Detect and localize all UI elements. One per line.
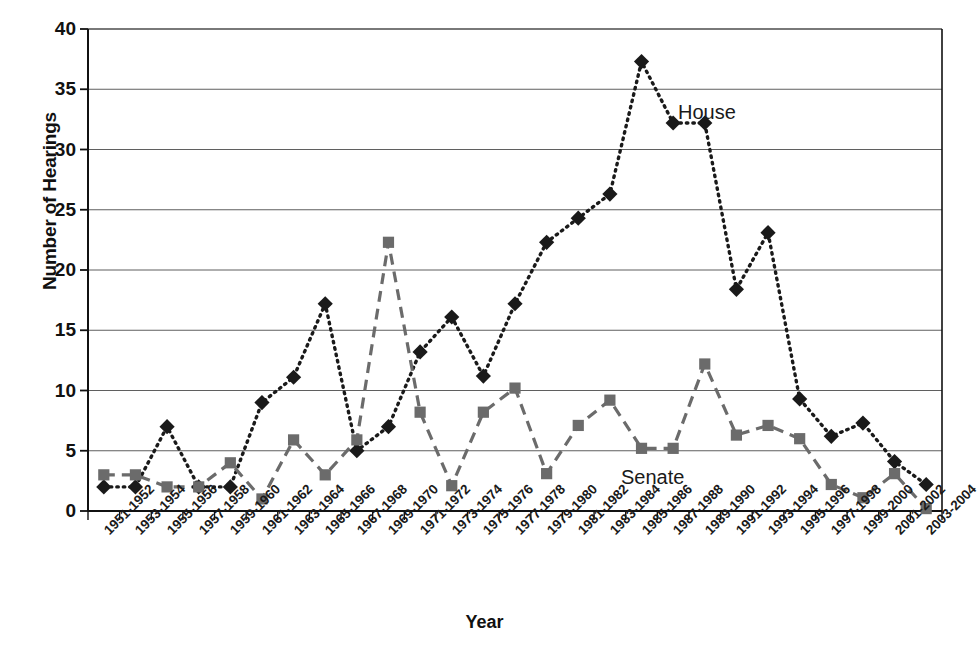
data-point-house xyxy=(318,296,333,311)
y-tick-label: 10 xyxy=(32,380,76,402)
y-tick-label: 40 xyxy=(32,18,76,40)
data-point-senate xyxy=(541,468,552,479)
data-point-senate xyxy=(762,420,773,431)
data-point-senate xyxy=(668,443,679,454)
data-point-senate xyxy=(794,433,805,444)
data-point-house xyxy=(254,395,269,410)
data-point-senate xyxy=(478,407,489,418)
data-point-senate xyxy=(573,420,584,431)
data-point-senate xyxy=(731,429,742,440)
series-markers xyxy=(96,54,934,514)
data-point-senate xyxy=(636,443,647,454)
data-point-senate xyxy=(889,468,900,479)
data-point-senate xyxy=(604,395,615,406)
series-line-house xyxy=(104,62,926,487)
y-tick-label: 5 xyxy=(32,440,76,462)
series-annotation-senate: Senate xyxy=(621,466,684,489)
y-tick-label: 15 xyxy=(32,319,76,341)
y-tick-marks xyxy=(80,29,88,511)
data-point-senate xyxy=(351,434,362,445)
data-point-senate xyxy=(225,457,236,468)
data-point-senate xyxy=(288,434,299,445)
y-tick-label: 20 xyxy=(32,259,76,281)
data-point-house xyxy=(729,282,744,297)
data-point-senate xyxy=(320,469,331,480)
data-point-house xyxy=(760,225,775,240)
y-tick-label: 0 xyxy=(32,500,76,522)
x-axis-title: Year xyxy=(0,612,969,633)
data-point-house xyxy=(476,368,491,383)
data-point-senate xyxy=(383,237,394,248)
data-point-senate xyxy=(130,469,141,480)
data-point-house xyxy=(159,419,174,434)
data-point-house xyxy=(286,370,301,385)
y-tick-label: 25 xyxy=(32,199,76,221)
y-tick-label: 35 xyxy=(32,78,76,100)
series-annotation-house: House xyxy=(678,101,736,124)
data-point-house xyxy=(507,296,522,311)
data-point-house xyxy=(96,479,111,494)
data-point-senate xyxy=(98,469,109,480)
data-point-senate xyxy=(415,407,426,418)
data-point-senate xyxy=(699,358,710,369)
data-point-house xyxy=(634,54,649,69)
data-point-senate xyxy=(509,382,520,393)
series-line-senate xyxy=(104,242,926,508)
y-tick-label: 30 xyxy=(32,139,76,161)
